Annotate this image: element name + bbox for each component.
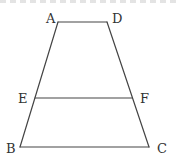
segment-AB xyxy=(20,22,58,147)
label-E: E xyxy=(18,91,28,106)
label-F: F xyxy=(140,91,149,106)
diagram-canvas: A D E F B C xyxy=(0,0,176,159)
label-B: B xyxy=(6,141,16,156)
trapezoid-figure: A D E F B C xyxy=(0,0,176,159)
segment-DC xyxy=(107,22,149,147)
label-D: D xyxy=(112,11,122,26)
label-A: A xyxy=(45,11,56,26)
label-C: C xyxy=(157,141,167,156)
cropped-text-fragment xyxy=(0,0,176,3)
